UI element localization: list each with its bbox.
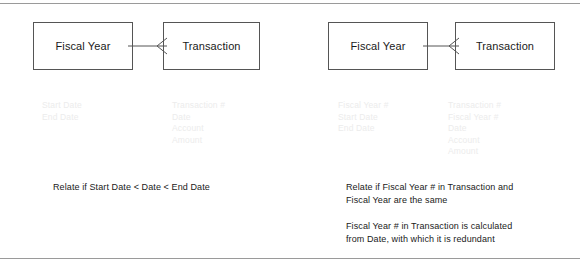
entity-label-fiscal-year: Fiscal Year [351, 40, 406, 52]
caption-line: from Date, with which it is redundant [346, 233, 512, 246]
attribute-item: Fiscal Year # [338, 100, 389, 112]
caption-line: Fiscal Year # in Transaction is calculat… [346, 220, 512, 233]
entity-box-fiscal-year[interactable]: Fiscal Year [33, 22, 133, 70]
entity-label-fiscal-year: Fiscal Year [56, 40, 111, 52]
caption-line: Relate if Start Date < Date < End Date [53, 181, 210, 194]
entity-label-transaction: Transaction [476, 40, 534, 52]
attribute-item: Fiscal Year # [448, 112, 501, 124]
attribute-item: Start Date [338, 112, 389, 124]
attribute-list-fiscal-year: Fiscal Year # Start Date End Date [338, 100, 389, 135]
attribute-item: Date [172, 112, 225, 124]
attribute-item: Amount [172, 135, 225, 147]
attribute-list-transaction: Transaction # Fiscal Year # Date Account… [448, 100, 501, 158]
caption-relate-rule: Relate if Start Date < Date < End Date [53, 181, 210, 194]
panel-date-range-relationship: Fiscal Year Transaction Start Date End D… [0, 0, 290, 270]
attribute-item: Transaction # [448, 100, 501, 112]
entity-box-fiscal-year[interactable]: Fiscal Year [328, 22, 428, 70]
attribute-item: Account [172, 123, 225, 135]
caption-line: Fiscal Year are the same [346, 194, 513, 207]
attribute-item: Start Date [42, 100, 82, 112]
caption-line: Relate if Fiscal Year # in Transaction a… [346, 181, 513, 194]
caption-redundancy-note: Fiscal Year # in Transaction is calculat… [346, 220, 512, 246]
entity-box-transaction[interactable]: Transaction [163, 22, 260, 70]
attribute-list-transaction: Transaction # Date Account Amount [172, 100, 225, 146]
crows-foot-connector-icon [423, 28, 465, 64]
attribute-item: Account [448, 135, 501, 147]
attribute-item: End Date [338, 123, 389, 135]
attribute-item: End Date [42, 112, 82, 124]
crows-foot-connector-icon [128, 28, 173, 64]
caption-relate-rule: Relate if Fiscal Year # in Transaction a… [346, 181, 513, 207]
entity-label-transaction: Transaction [182, 40, 240, 52]
attribute-item: Date [448, 123, 501, 135]
attribute-item: Transaction # [172, 100, 225, 112]
attribute-item: Amount [448, 146, 501, 158]
er-diagram-figure: Fiscal Year Transaction Start Date End D… [0, 0, 580, 270]
entity-box-transaction[interactable]: Transaction [455, 22, 555, 70]
attribute-list-fiscal-year: Start Date End Date [42, 100, 82, 123]
panel-foreign-key-relationship: Fiscal Year Transaction Fiscal Year # St… [290, 0, 580, 270]
